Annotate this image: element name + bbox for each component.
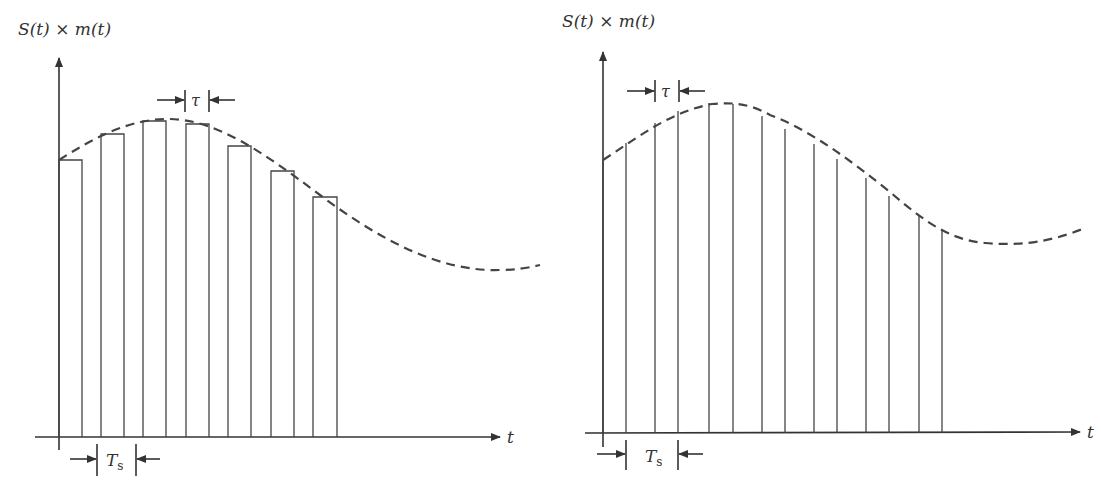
message-envelope bbox=[59, 119, 540, 270]
flat-top-pulses bbox=[59, 121, 337, 437]
x-axis-label: t bbox=[1087, 422, 1094, 442]
x-axis-label: t bbox=[507, 427, 514, 447]
y-axis-label: S(t) × m(t) bbox=[18, 19, 111, 39]
natural-pulses bbox=[603, 103, 942, 433]
message-envelope bbox=[603, 103, 1085, 244]
ts-label: Ts bbox=[106, 450, 124, 473]
ts-marker: Ts bbox=[597, 440, 703, 470]
sampling-diagram: S(t) × m(t) t τ bbox=[0, 0, 1101, 492]
ts-marker: Ts bbox=[70, 444, 160, 476]
tau-marker: τ bbox=[627, 80, 705, 102]
natural-panel: S(t) × m(t) t bbox=[562, 11, 1094, 470]
x-axis bbox=[585, 432, 1080, 433]
tau-label: τ bbox=[191, 91, 201, 110]
flat-top-panel: S(t) × m(t) t τ bbox=[18, 19, 540, 476]
y-axis-label: S(t) × m(t) bbox=[562, 11, 655, 31]
ts-label: Ts bbox=[645, 446, 663, 469]
tau-marker: τ bbox=[157, 90, 235, 112]
tau-label: τ bbox=[661, 82, 671, 101]
